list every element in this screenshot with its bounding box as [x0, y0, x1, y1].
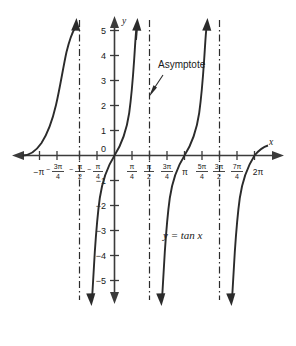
x-axis-label: x — [268, 137, 274, 147]
y-tick-label-1: 1 — [101, 126, 106, 136]
graph-canvas: x y 5 4 3 2 1 0 −1 — [0, 0, 296, 346]
x-tick-label-5pi-over-4: 5π 4 — [196, 163, 208, 180]
x-tick-label--pi: −π — [34, 167, 45, 177]
x-tick-label-pi: π — [182, 167, 188, 177]
frac-denominator: 4 — [96, 173, 100, 180]
y-tick-label--4: −4 — [96, 251, 106, 261]
y-tick-label-3: 3 — [101, 76, 106, 86]
tangent-branch-left — [23, 28, 76, 156]
frac-denominator: 4 — [56, 173, 60, 180]
frac-denominator: 4 — [200, 173, 204, 180]
y-tick-label--5: −5 — [96, 276, 106, 286]
x-tick-labels: −π − 3π 4 − π 2 − π 4 — [34, 163, 264, 180]
frac-denominator: 2 — [78, 173, 82, 180]
y-tick-label-4: 4 — [101, 51, 106, 61]
x-axis: x — [12, 137, 284, 160]
curve-arrow-down-center — [86, 293, 95, 306]
tangent-branch-center-upper — [115, 28, 138, 156]
x-axis-arrow-left — [12, 151, 24, 160]
tangent-function-graph: x y 5 4 3 2 1 0 −1 — [0, 0, 296, 346]
y-tick-label-0: 0 — [101, 144, 106, 154]
y-tick-label--2: −2 — [96, 201, 106, 211]
frac-denominator: 2 — [217, 173, 221, 180]
function-equation-label: y = tan x — [162, 229, 203, 241]
frac-numerator: π — [130, 163, 135, 170]
frac-denominator: 4 — [130, 173, 134, 180]
y-axis-arrow-down — [110, 292, 119, 304]
frac-numerator: π — [96, 163, 101, 170]
frac-numerator: π — [78, 163, 83, 170]
x-tick-label-pi-over-4: π 4 — [127, 163, 137, 180]
y-axis-arrow-up — [110, 16, 119, 28]
frac-numerator: 3π — [163, 163, 172, 170]
frac-denominator: 2 — [147, 173, 151, 180]
x-tick-label--pi-over-2: − π 2 — [69, 163, 85, 180]
x-tick-label-3pi-over-4: 3π 4 — [161, 163, 173, 180]
x-tick-label--3pi-over-4: − 3π 4 — [46, 163, 64, 180]
tangent-branch-far-right-tail — [255, 146, 269, 156]
curve-arrow-up-center — [132, 18, 141, 31]
frac-numerator: π — [147, 163, 152, 170]
frac-numerator: 3π — [54, 163, 63, 170]
frac-denominator: 4 — [235, 173, 239, 180]
y-axis-label: y — [121, 16, 127, 26]
curve-arrow-down-right — [156, 293, 165, 306]
curve-arrow-up-right — [202, 18, 211, 31]
asymptote-annotation-label: Asymptote — [158, 59, 206, 70]
asymptote-annotation-arrowhead — [149, 85, 157, 97]
y-tick-label-5: 5 — [101, 26, 106, 36]
x-tick-label-2pi: 2π — [253, 167, 264, 177]
frac-sign: − — [46, 166, 50, 173]
tangent-curves — [23, 18, 269, 306]
curve-arrow-down-far-right — [226, 293, 235, 306]
frac-sign: − — [69, 166, 73, 173]
x-tick-label-3pi-over-2: 3π 2 — [213, 163, 225, 180]
y-tick-label-2: 2 — [101, 101, 106, 111]
asymptote-annotation: Asymptote — [149, 59, 206, 97]
frac-numerator: 3π — [215, 163, 224, 170]
x-axis-arrow-right — [272, 151, 284, 160]
frac-numerator: 7π — [233, 163, 242, 170]
tangent-branch-right-upper — [185, 28, 208, 156]
frac-denominator: 4 — [165, 173, 169, 180]
x-tick-label-7pi-over-4: 7π 4 — [231, 163, 243, 180]
frac-sign: − — [87, 166, 91, 173]
frac-numerator: 5π — [198, 163, 207, 170]
x-tick-label-pi-over-2: π 2 — [144, 163, 154, 180]
